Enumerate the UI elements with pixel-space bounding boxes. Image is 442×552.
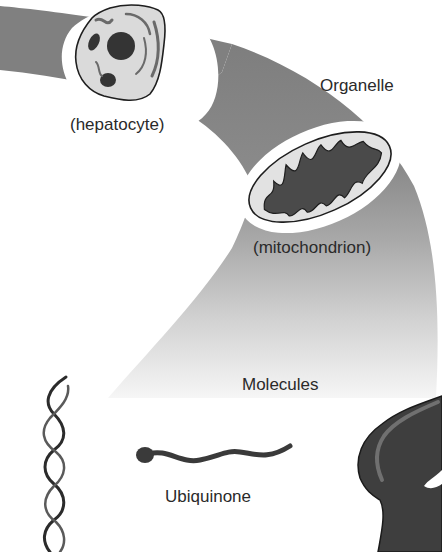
- organelle-level-label: Organelle: [320, 77, 394, 94]
- dna-helix-icon: [44, 377, 69, 552]
- ubiquinone-label: Ubiquinone: [165, 488, 251, 505]
- molecules-level-label: Molecules: [242, 376, 319, 393]
- ubiquinone-molecule-icon: [136, 446, 290, 463]
- mitochondrion-label: (mitochondrion): [253, 239, 371, 256]
- protein-molecule-icon: [358, 396, 442, 552]
- diagram-canvas: (hepatocyte) Organelle (mitochondrion) M…: [0, 0, 442, 552]
- hepatocyte-label: (hepatocyte): [70, 116, 165, 133]
- nucleus-icon: [107, 32, 135, 60]
